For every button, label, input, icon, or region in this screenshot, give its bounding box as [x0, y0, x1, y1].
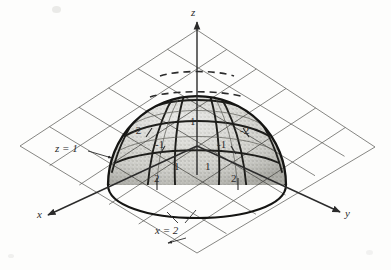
z-axis-label: z: [191, 6, 195, 18]
contour-label-left-neg-1: -1: [155, 138, 164, 150]
x-equals-2-leader-c: [168, 238, 186, 243]
x-axis-label: x: [37, 208, 42, 220]
contour-label-left-pos-1: 1: [174, 160, 180, 172]
contour-label-right-neg-2: -2: [240, 124, 249, 136]
contour-label-left-neg-2: -2: [132, 124, 141, 136]
scan-speckle: [366, 250, 373, 255]
plot-svg: [0, 0, 391, 270]
scan-speckle: [8, 254, 14, 258]
annotation-z-equals-1: z = 1: [55, 142, 78, 154]
dome-base-rim: [108, 185, 286, 218]
contour-label-right-pos-1: 1: [205, 160, 211, 172]
contour-label-right-neg-1: -1: [217, 138, 226, 150]
contour-label-right-pos-2: 2: [231, 172, 237, 184]
scan-speckle: [52, 6, 61, 13]
contour-label-left-pos-2: 2: [154, 172, 160, 184]
y-axis-label: y: [345, 207, 350, 219]
annotation-x-equals-2: x = 2: [155, 224, 178, 236]
figure-canvas: z x y z = 1 x = 2 -2 -1 1 2 1 -1 -2 1 2: [0, 0, 391, 270]
contour-label-center-pos-1: 1: [190, 115, 196, 127]
